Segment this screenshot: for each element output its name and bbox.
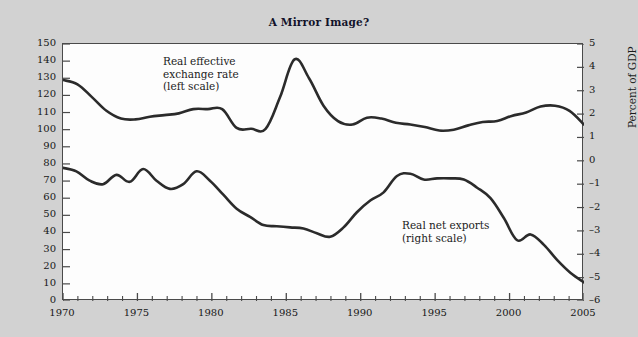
x-tick-2005: 2005 (563, 307, 603, 318)
left-tick-40: 40 (26, 225, 56, 236)
right-tick-0: 0 (589, 154, 619, 165)
right-tick--3: –3 (589, 224, 619, 235)
right-tick-2: 2 (589, 107, 619, 118)
left-tick-80: 80 (26, 157, 56, 168)
left-tick-0: 0 (26, 294, 56, 305)
right-tick-4: 4 (589, 60, 619, 71)
plot-area (62, 43, 583, 300)
left-tick-70: 70 (26, 174, 56, 185)
right-tick-5: 5 (589, 37, 619, 48)
x-tick-1995: 1995 (414, 307, 454, 318)
chart-title: A Mirror Image? (0, 16, 638, 28)
x-tick-1985: 1985 (265, 307, 305, 318)
left-tick-100: 100 (26, 123, 56, 134)
left-tick-50: 50 (26, 208, 56, 219)
left-tick-20: 20 (26, 260, 56, 271)
right-tick--5: –5 (589, 271, 619, 282)
left-tick-140: 140 (26, 54, 56, 65)
right-tick-3: 3 (589, 84, 619, 95)
left-tick-90: 90 (26, 140, 56, 151)
x-tick-1975: 1975 (116, 307, 156, 318)
axis-tick-marks (63, 44, 584, 301)
exchange-rate-annotation: Real effective exchange rate (left scale… (163, 55, 239, 93)
left-tick-60: 60 (26, 191, 56, 202)
right-tick--6: –6 (589, 294, 619, 305)
x-tick-1970: 1970 (42, 307, 82, 318)
right-axis-title: Percent of GDP (626, 0, 638, 128)
net-exports-line (63, 168, 584, 282)
net-exports-annotation: Real net exports (right scale) (402, 219, 489, 244)
left-tick-150: 150 (26, 37, 56, 48)
left-tick-120: 120 (26, 88, 56, 99)
left-tick-130: 130 (26, 71, 56, 82)
right-tick--4: –4 (589, 247, 619, 258)
x-tick-2000: 2000 (489, 307, 529, 318)
x-tick-1990: 1990 (340, 307, 380, 318)
x-tick-1980: 1980 (191, 307, 231, 318)
left-tick-30: 30 (26, 243, 56, 254)
right-tick--2: –2 (589, 201, 619, 212)
chart-svg (63, 44, 584, 301)
right-tick--1: –1 (589, 177, 619, 188)
exchange-rate-line (63, 59, 584, 132)
left-tick-110: 110 (26, 106, 56, 117)
right-tick-1: 1 (589, 130, 619, 141)
left-tick-10: 10 (26, 277, 56, 288)
figure-container: A Mirror Image? Percent of 1980 value Pe… (0, 0, 638, 337)
